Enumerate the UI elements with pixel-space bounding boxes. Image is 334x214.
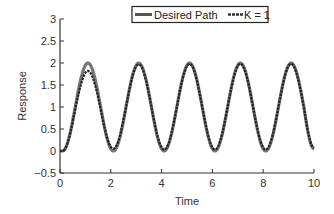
x-tick-label: 4 — [159, 177, 165, 189]
x-ticks: 0246810 — [57, 169, 320, 189]
y-tick-label: 1 — [50, 101, 56, 113]
y-tick-label: 2 — [50, 57, 56, 69]
legend-desired-label: Desired Path — [154, 9, 218, 21]
series-desired-path-line — [60, 63, 314, 151]
y-tick-label: 1.5 — [41, 79, 56, 91]
y-axis-title: Response — [16, 71, 28, 121]
y-tick-label: 0 — [50, 145, 56, 157]
x-tick-label: 2 — [108, 177, 114, 189]
chart: −0.500.511.522.53 0246810 Time Response … — [0, 0, 334, 214]
y-tick-label: 2.5 — [41, 35, 56, 47]
x-tick-label: 0 — [57, 177, 63, 189]
plot-lines — [60, 63, 314, 151]
legend-k1-label: K = 1 — [244, 9, 270, 21]
legend: Desired Path K = 1 — [132, 7, 270, 23]
y-tick-label: 3 — [50, 13, 56, 25]
x-axis-title: Time — [175, 195, 199, 207]
x-tick-label: 8 — [260, 177, 266, 189]
series-k1-line — [60, 64, 314, 151]
y-tick-label: −0.5 — [34, 167, 56, 179]
y-tick-label: 0.5 — [41, 123, 56, 135]
x-tick-label: 6 — [209, 177, 215, 189]
x-tick-label: 10 — [308, 177, 320, 189]
